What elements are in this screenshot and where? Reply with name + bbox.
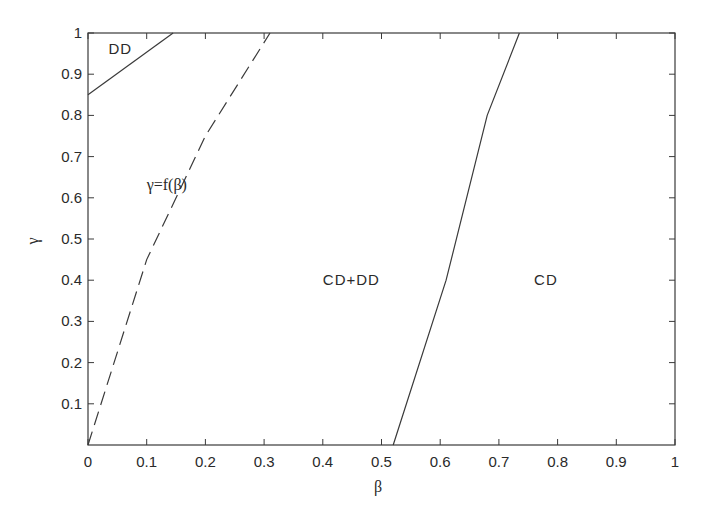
x-tick-label: 0.7 (488, 453, 509, 470)
y-tick-label: 0.2 (61, 354, 82, 371)
region-labels: DDγ=f(β)CD+DDCD (109, 40, 558, 288)
y-tick-label: 0.3 (61, 312, 82, 329)
x-axis-ticks: 00.10.20.30.40.50.60.70.80.91 (84, 33, 679, 470)
region-label: γ=f(β) (146, 176, 187, 194)
series-lines (88, 33, 519, 445)
x-tick-label: 0.1 (136, 453, 157, 470)
axes-frame (88, 33, 675, 445)
x-tick-label: 0.3 (254, 453, 275, 470)
y-tick-label: 0.4 (61, 271, 82, 288)
x-tick-label: 1 (671, 453, 679, 470)
x-tick-label: 0.9 (606, 453, 627, 470)
x-tick-label: 0.6 (430, 453, 451, 470)
region-label: CD+DD (323, 271, 380, 288)
y-tick-label: 0.5 (61, 230, 82, 247)
y-tick-label: 0.1 (61, 395, 82, 412)
region-label: CD (534, 271, 558, 288)
y-axis-label: γ (24, 237, 42, 245)
plot-area (88, 33, 675, 445)
y-tick-label: 0.9 (61, 65, 82, 82)
x-tick-label: 0.5 (371, 453, 392, 470)
x-tick-label: 0.2 (195, 453, 216, 470)
x-axis-label: β (374, 478, 382, 496)
x-tick-label: 0 (84, 453, 92, 470)
y-tick-label: 0.8 (61, 106, 82, 123)
y-tick-label: 0.7 (61, 148, 82, 165)
series-line (88, 33, 270, 445)
x-tick-label: 0.4 (312, 453, 333, 470)
y-tick-label: 0.6 (61, 189, 82, 206)
y-tick-label: 1 (74, 24, 82, 41)
y-axis-ticks: 0.10.20.30.40.50.60.70.80.91 (61, 24, 675, 412)
region-label: DD (109, 40, 133, 57)
series-line (393, 33, 519, 445)
x-tick-label: 0.8 (547, 453, 568, 470)
phase-diagram-chart: 00.10.20.30.40.50.60.70.80.91 0.10.20.30… (0, 0, 706, 526)
